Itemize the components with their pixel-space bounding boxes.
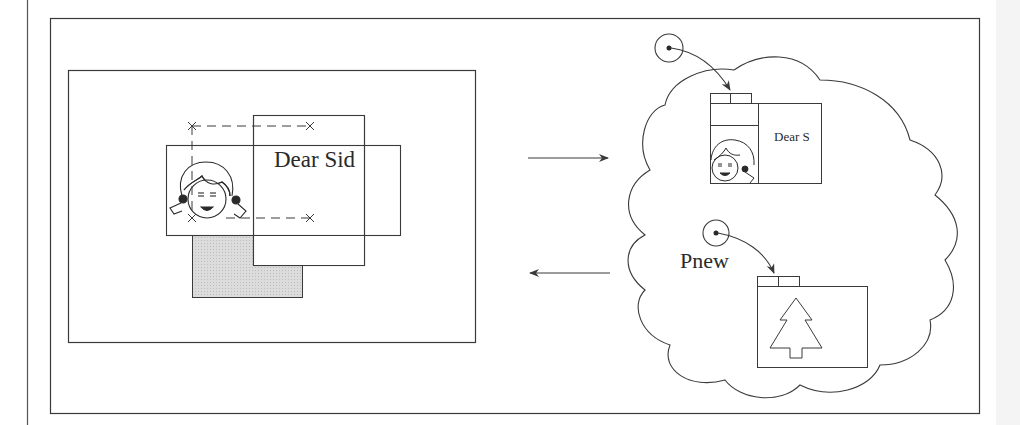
- saved-window-text: Dear S: [774, 129, 810, 144]
- document-text: Dear Sid: [274, 147, 356, 172]
- diagram-canvas: Dear Sid Dear S: [0, 0, 1020, 425]
- document-window[interactable]: Dear Sid: [254, 116, 365, 266]
- new-window-label: Pnew: [680, 248, 729, 273]
- saved-window-pointer: [655, 34, 730, 90]
- new-window[interactable]: [758, 277, 868, 368]
